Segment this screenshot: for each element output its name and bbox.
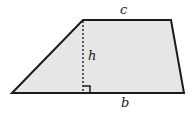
- trapezoid-outline: [12, 20, 184, 93]
- height-label-h: h: [88, 49, 96, 62]
- geometry-figure-trapezoid: c h b: [0, 0, 192, 114]
- bottom-side-label-b: b: [121, 96, 129, 109]
- top-side-label-c: c: [120, 3, 127, 16]
